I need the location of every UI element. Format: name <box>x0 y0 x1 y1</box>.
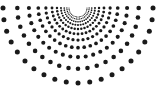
data-dot <box>119 49 124 54</box>
data-dot <box>68 14 69 15</box>
data-dot <box>69 12 70 13</box>
data-dot <box>57 32 60 35</box>
data-dot <box>62 35 65 38</box>
data-dot <box>72 15 73 16</box>
data-dot <box>90 11 92 13</box>
data-dot <box>69 15 70 16</box>
data-dot <box>77 18 78 19</box>
data-dot <box>150 17 155 22</box>
data-dot <box>62 22 64 24</box>
data-dot <box>69 31 72 34</box>
data-dot <box>99 77 104 82</box>
data-dot <box>98 7 100 9</box>
data-dot <box>77 16 78 17</box>
data-dot <box>66 15 68 17</box>
data-dot <box>52 15 55 18</box>
data-dot <box>56 10 58 12</box>
data-dot <box>85 18 87 20</box>
data-dot <box>89 13 91 15</box>
data-dot <box>68 54 72 58</box>
data-dot <box>56 7 58 9</box>
data-dot <box>91 35 94 38</box>
data-dot <box>66 9 67 10</box>
data-dot <box>64 24 66 26</box>
data-dot <box>65 13 67 15</box>
data-dot <box>97 13 99 15</box>
data-dot <box>94 63 99 68</box>
data-dot <box>115 12 119 16</box>
data-dot <box>41 72 46 77</box>
data-dot <box>120 28 124 32</box>
data-dot <box>76 81 81 86</box>
data-dot <box>92 28 95 31</box>
data-dot <box>85 12 86 13</box>
data-dot <box>103 7 106 10</box>
data-dot <box>91 9 93 11</box>
data-dot <box>98 22 101 25</box>
data-dot <box>136 15 141 20</box>
data-dot <box>48 21 51 24</box>
data-dot <box>86 9 87 10</box>
data-dot <box>54 50 58 54</box>
data-dot <box>111 41 115 45</box>
data-dot <box>151 6 156 11</box>
data-dot <box>69 22 71 24</box>
data-dot <box>136 50 141 55</box>
data-dot <box>15 50 20 55</box>
radial-dot-canvas <box>0 0 157 90</box>
data-dot <box>88 11 89 12</box>
data-dot <box>36 35 40 39</box>
data-dot <box>80 16 81 17</box>
data-dot <box>79 21 81 23</box>
data-dot <box>61 53 65 57</box>
data-dot <box>73 32 76 35</box>
data-dot <box>53 38 57 42</box>
data-dot <box>71 14 72 15</box>
data-dot <box>86 7 87 8</box>
data-dot <box>81 18 82 19</box>
data-dot <box>94 42 98 46</box>
data-dot <box>37 12 41 16</box>
data-dot <box>125 41 130 46</box>
data-dot <box>1 6 6 11</box>
data-dot <box>75 16 76 17</box>
data-dot <box>67 21 69 23</box>
data-dot <box>80 24 82 26</box>
data-dot <box>102 11 105 14</box>
data-dot <box>76 46 80 50</box>
data-dot <box>71 16 72 17</box>
data-dot <box>82 17 83 18</box>
data-dot <box>63 17 65 19</box>
data-dot <box>73 28 75 30</box>
data-dot <box>44 30 48 34</box>
data-dot <box>89 24 91 26</box>
data-dot <box>54 29 57 32</box>
data-dot <box>52 77 57 82</box>
data-dot <box>104 34 108 38</box>
data-dot <box>77 24 79 26</box>
data-dot <box>36 6 40 10</box>
data-dot <box>108 6 111 9</box>
data-dot <box>15 6 20 11</box>
data-dot <box>105 21 108 24</box>
data-dot <box>73 20 75 22</box>
data-dot <box>81 38 84 41</box>
data-dot <box>67 26 69 28</box>
data-dot <box>136 6 141 11</box>
data-dot <box>45 11 48 14</box>
data-dot <box>88 44 92 48</box>
data-dot <box>69 10 70 11</box>
data-dot <box>64 80 69 85</box>
data-dot <box>76 66 81 71</box>
data-dot <box>133 24 138 29</box>
data-dot <box>27 6 31 10</box>
data-dot <box>83 27 85 29</box>
data-dot <box>108 30 112 34</box>
data-dot <box>129 59 134 64</box>
data-dot <box>60 19 62 21</box>
data-dot <box>91 7 93 9</box>
data-dot <box>61 12 63 14</box>
data-dot <box>77 33 80 36</box>
data-dot <box>89 19 91 21</box>
data-dot <box>76 16 77 17</box>
